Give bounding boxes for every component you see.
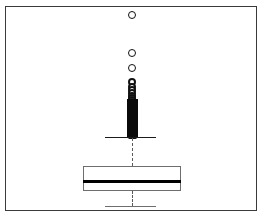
lower-whisker-line	[132, 191, 133, 206]
outlier-marker	[128, 11, 136, 19]
outlier-marker	[128, 49, 136, 57]
outlier-marker	[128, 64, 136, 72]
boxplot-figure	[0, 0, 264, 218]
upper-whisker-cap	[105, 137, 156, 138]
outlier-dense-column-cap	[127, 132, 138, 139]
plot-frame	[5, 6, 257, 211]
lower-whisker-cap	[105, 206, 156, 207]
median-line	[83, 180, 181, 183]
box-iqr	[83, 166, 181, 191]
